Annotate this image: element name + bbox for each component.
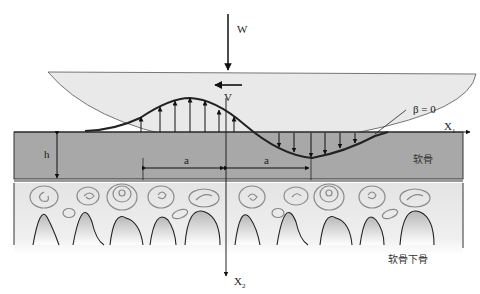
diagram-svg: [0, 0, 480, 294]
x2-axis-label: X2: [234, 276, 245, 290]
x1-axis-label: X1: [444, 121, 455, 135]
cartilage-label: 软骨: [413, 155, 433, 165]
velocity-label: V: [224, 92, 232, 103]
half-width-right-label: a: [264, 155, 269, 166]
subchondral-bone-label: 软骨下骨: [388, 255, 428, 265]
beta-label: β = 0: [413, 104, 436, 115]
load-label: W: [237, 24, 247, 35]
half-width-left-label: a: [184, 155, 189, 166]
cartilage-layer: [14, 132, 463, 179]
diagram-canvas: W V β = 0 X1 X2 h a a 软骨 软骨下骨: [0, 0, 480, 294]
thickness-label: h: [44, 149, 50, 160]
